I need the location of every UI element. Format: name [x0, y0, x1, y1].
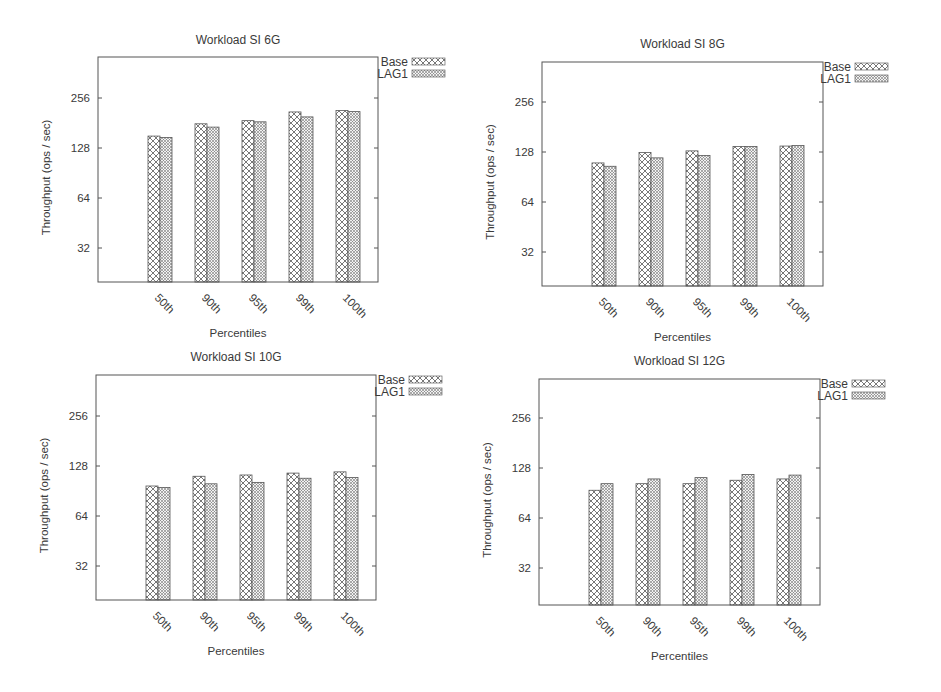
x-tick-label: 100th: [782, 614, 811, 643]
chart-panel-1: Workload SI 6G50th90th95th99th100th32641…: [40, 33, 445, 339]
x-axis-label: Percentiles: [654, 331, 711, 343]
bar-base-100th: [777, 479, 789, 605]
chart-title: Workload SI 8G: [640, 37, 724, 51]
x-tick-label: 99th: [292, 609, 316, 633]
x-axis-label: Percentiles: [208, 645, 265, 657]
bar-base-95th: [242, 121, 254, 282]
bar-lag1-99th: [742, 474, 754, 605]
legend-swatch-lag1: [852, 392, 885, 399]
bar-lag1-99th: [299, 478, 311, 600]
legend-swatch-base: [409, 376, 442, 383]
legend-swatch-base: [855, 63, 888, 70]
x-axis-label: Percentiles: [210, 327, 267, 339]
x-tick-label: 95th: [245, 609, 269, 633]
bar-lag1-95th: [695, 478, 707, 605]
x-tick-label: 95th: [688, 614, 712, 638]
bar-lag1-100th: [346, 478, 358, 600]
x-tick-label: 95th: [691, 295, 715, 319]
bar-lag1-95th: [252, 482, 264, 600]
legend: BaseLAG1: [377, 55, 445, 81]
y-tick-label: 64: [77, 192, 90, 204]
x-tick-label: 50th: [153, 291, 177, 315]
y-tick-label: 32: [75, 560, 88, 572]
x-tick-label: 100th: [339, 609, 368, 638]
bar-lag1-100th: [789, 475, 801, 605]
bar-base-100th: [334, 472, 346, 600]
bar-base-95th: [240, 475, 252, 600]
y-tick-label: 256: [69, 410, 88, 422]
figure-canvas: Workload SI 6G50th90th95th99th100th32641…: [0, 0, 941, 692]
y-tick-label: 128: [512, 462, 531, 474]
y-axis-label: Throughput (ops / sec): [40, 119, 52, 235]
y-tick-label: 64: [75, 510, 88, 522]
legend: BaseLAG1: [817, 377, 885, 403]
bar-lag1-50th: [604, 166, 616, 286]
y-tick-label: 64: [518, 512, 531, 524]
chart-title: Workload SI 10G: [190, 350, 281, 364]
legend-label-lag1: LAG1: [377, 67, 408, 81]
y-tick-label: 128: [69, 460, 88, 472]
bar-base-95th: [683, 484, 695, 605]
legend-label-lag1: LAG1: [820, 72, 851, 86]
x-tick-label: 90th: [641, 614, 665, 638]
bar-base-50th: [146, 486, 158, 600]
bar-base-50th: [592, 163, 604, 286]
y-tick-label: 256: [515, 96, 534, 108]
legend-label-lag1: LAG1: [374, 385, 405, 399]
bar-lag1-90th: [648, 479, 660, 605]
chart-title: Workload SI 6G: [196, 33, 280, 47]
y-tick-label: 128: [71, 142, 90, 154]
bar-base-90th: [195, 124, 207, 282]
legend-swatch-lag1: [855, 75, 888, 82]
bar-lag1-50th: [158, 488, 170, 600]
x-tick-label: 99th: [738, 295, 762, 319]
bar-lag1-90th: [207, 127, 219, 282]
x-tick-label: 100th: [785, 295, 814, 324]
chart-panel-4: Workload SI 12G50th90th95th99th100th3264…: [481, 354, 885, 662]
legend: BaseLAG1: [820, 60, 888, 86]
bar-lag1-100th: [348, 112, 360, 282]
y-tick-label: 32: [77, 242, 90, 254]
y-tick-label: 64: [521, 196, 534, 208]
x-tick-label: 100th: [341, 291, 370, 320]
bar-lag1-99th: [301, 117, 313, 282]
x-tick-label: 90th: [644, 295, 668, 319]
x-tick-label: 95th: [247, 291, 271, 315]
bar-base-95th: [686, 151, 698, 286]
y-axis-label: Throughput (ops / sec): [484, 124, 496, 240]
bar-base-90th: [639, 153, 651, 286]
x-tick-label: 99th: [735, 614, 759, 638]
x-tick-label: 90th: [200, 291, 224, 315]
legend: BaseLAG1: [374, 373, 442, 399]
bar-base-99th: [287, 473, 299, 600]
y-axis-label: Throughput (ops / sec): [38, 437, 50, 553]
bar-base-90th: [193, 476, 205, 600]
legend-swatch-lag1: [412, 70, 445, 77]
bar-base-50th: [589, 490, 601, 605]
bar-lag1-50th: [601, 484, 613, 605]
bar-lag1-90th: [651, 158, 663, 286]
x-tick-label: 99th: [294, 291, 318, 315]
y-tick-label: 32: [518, 562, 531, 574]
y-tick-label: 32: [521, 246, 534, 258]
legend-swatch-base: [852, 380, 885, 387]
chart-panel-2: Workload SI 8G50th90th95th99th100th32641…: [484, 37, 888, 343]
bar-base-99th: [730, 480, 742, 605]
bar-base-100th: [336, 111, 348, 282]
y-tick-label: 256: [71, 92, 90, 104]
bar-lag1-95th: [698, 155, 710, 286]
chart-title: Workload SI 12G: [634, 354, 725, 368]
bar-base-100th: [780, 146, 792, 286]
bar-lag1-90th: [205, 484, 217, 600]
bar-lag1-100th: [792, 146, 804, 286]
legend-swatch-lag1: [409, 388, 442, 395]
legend-swatch-base: [412, 58, 445, 65]
bar-base-90th: [636, 484, 648, 605]
bar-lag1-99th: [745, 147, 757, 286]
x-tick-label: 50th: [594, 614, 618, 638]
bar-base-99th: [289, 112, 301, 282]
y-axis-label: Throughput (ops / sec): [481, 442, 493, 558]
chart-panel-3: Workload SI 10G50th90th95th99th100th3264…: [38, 350, 442, 657]
x-tick-label: 50th: [151, 609, 175, 633]
bar-lag1-50th: [160, 138, 172, 282]
